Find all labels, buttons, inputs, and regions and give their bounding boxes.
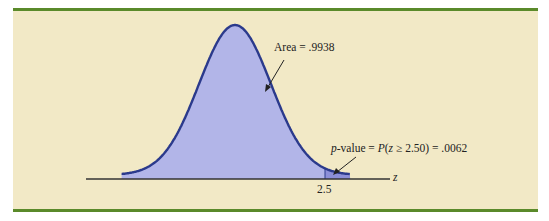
axis-label-z: z: [392, 171, 398, 183]
pvalue-cond: ≥ 2.50) = .0062: [393, 142, 467, 155]
pvalue-text: -value =: [337, 142, 378, 154]
normal-distribution-chart: Area = .9938 p-value = P(z ≥ 2.50) = .00…: [0, 0, 549, 221]
pvalue-P: P: [377, 142, 385, 154]
tick-label-2-5: 2.5: [317, 183, 332, 195]
pvalue-arrow-line: [337, 157, 356, 172]
area-label: Area = .9938: [274, 41, 335, 53]
area-arrow-line: [268, 60, 284, 87]
pvalue-label: p-value = P(z ≥ 2.50) = .0062: [330, 142, 467, 155]
